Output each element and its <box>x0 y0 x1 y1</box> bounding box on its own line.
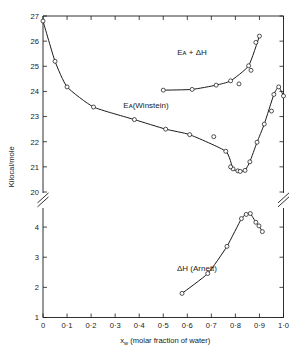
data-point-marker <box>53 59 57 63</box>
y-tick-label: 22 <box>31 138 39 147</box>
data-point-marker <box>180 291 184 295</box>
data-point-marker <box>243 168 247 172</box>
y-axis-title: Kilocal/mole <box>7 146 16 187</box>
y-tick-label: 4 <box>35 223 39 232</box>
data-point-marker <box>249 68 253 72</box>
y-tick-label: 25 <box>31 62 39 71</box>
data-point-marker <box>255 140 259 144</box>
data-point-marker <box>244 212 248 216</box>
series-line <box>163 36 259 90</box>
data-point-marker <box>260 230 264 234</box>
data-point-marker <box>164 127 168 131</box>
y-tick-label: 21 <box>31 163 39 172</box>
x-tick-label: 0·6 <box>182 321 193 330</box>
data-point-marker <box>257 224 261 228</box>
data-point-marker <box>238 169 242 173</box>
x-tick-label: 0·3 <box>110 321 121 330</box>
data-point-marker <box>132 118 136 122</box>
series-line <box>182 213 262 293</box>
data-point-marker <box>188 133 192 137</box>
x-tick-label: 0·1 <box>62 321 73 330</box>
data-point-marker <box>248 212 252 216</box>
x-tick-label: 0·4 <box>134 321 145 330</box>
x-tick-label: 0·7 <box>206 321 217 330</box>
x-tick-label: 1·0 <box>278 321 289 330</box>
data-point-marker <box>212 135 216 139</box>
data-point-marker <box>41 19 45 23</box>
data-point-marker <box>92 105 96 109</box>
data-point-marker <box>214 83 218 87</box>
data-point-marker <box>269 109 273 113</box>
y-tick-label: 27 <box>31 12 39 21</box>
annotation-ea-plus-dh: Eᴀ + ΔH <box>177 48 207 57</box>
data-point-marker <box>248 160 252 164</box>
data-point-marker <box>224 149 228 153</box>
data-point-marker <box>161 88 165 92</box>
y-tick-label: 1 <box>35 313 39 322</box>
series-line <box>43 21 284 171</box>
y-tick-label: 20 <box>31 188 39 197</box>
data-point-marker <box>247 64 251 68</box>
y-tick-label: 2 <box>35 283 39 292</box>
data-point-marker <box>229 165 233 169</box>
x-axis-title: xw (molar fraction of water) <box>120 336 211 346</box>
data-point-marker <box>254 40 258 44</box>
data-markers <box>41 19 286 295</box>
data-point-marker <box>225 244 229 248</box>
data-point-marker <box>65 85 69 89</box>
x-tick-label: 0·9 <box>254 321 265 330</box>
y-tick-label: 23 <box>31 112 39 121</box>
x-tick-label: 0·5 <box>158 321 169 330</box>
data-point-marker <box>190 87 194 91</box>
data-point-marker <box>239 217 243 221</box>
axis-break-marks <box>38 193 290 208</box>
annotation-dh-arnett: ΔH (Arnett) <box>177 264 217 273</box>
x-tick-label: 0·8 <box>230 321 241 330</box>
y-tick-label: 3 <box>35 253 39 262</box>
data-point-marker <box>277 85 281 89</box>
y-tick-label: 26 <box>31 37 39 46</box>
data-curves <box>43 21 284 293</box>
series-annotations: Eᴀ + ΔHEᴀ(Winstein)ΔH (Arnett) <box>123 48 217 273</box>
data-point-marker <box>262 122 266 126</box>
x-tick-label: 0·2 <box>86 321 97 330</box>
chart-plot-area: 2021222324252627123400·10·20·30·40·50·60… <box>0 0 308 353</box>
data-point-marker <box>282 94 286 98</box>
data-point-marker <box>272 92 276 96</box>
data-point-marker <box>237 82 241 86</box>
x-tick-label: 0 <box>41 321 45 330</box>
annotation-ea-winstein: Eᴀ(Winstein) <box>123 101 169 110</box>
data-point-marker <box>229 79 233 83</box>
y-tick-label: 24 <box>31 87 39 96</box>
data-point-marker <box>254 220 258 224</box>
data-point-marker <box>257 34 261 38</box>
axis-tick-labels: 2021222324252627123400·10·20·30·40·50·60… <box>31 12 289 330</box>
chart-figure: 2021222324252627123400·10·20·30·40·50·60… <box>0 0 308 353</box>
